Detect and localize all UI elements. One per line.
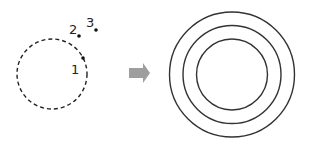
arrow-right-icon (129, 63, 150, 83)
diagram: 1 2 3 (0, 0, 312, 148)
outer-ring (170, 12, 295, 137)
point-3-label: 3 (86, 15, 94, 30)
middle-ring (183, 26, 281, 124)
dashed-circle-group: 1 2 3 (17, 15, 98, 109)
concentric-circles (170, 12, 295, 137)
point-2 (77, 34, 81, 38)
inner-ring (197, 39, 268, 110)
point-1 (81, 56, 85, 60)
point-2-label: 2 (69, 22, 77, 37)
point-3 (94, 28, 98, 32)
point-1-label: 1 (71, 62, 79, 77)
